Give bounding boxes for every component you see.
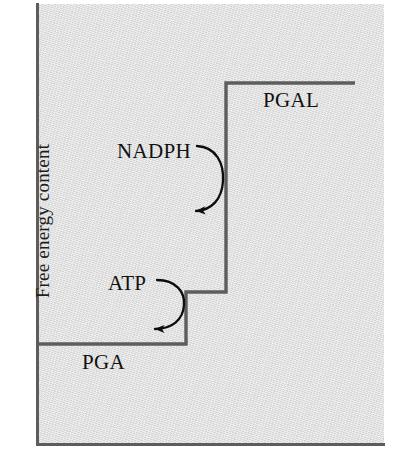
diagram-overlay bbox=[0, 0, 404, 454]
nadph-arrow bbox=[196, 146, 223, 211]
energy-diagram-figure: Free energy content PGAL PGA NADPH ATP bbox=[0, 0, 404, 454]
label-nadph: NADPH bbox=[117, 139, 191, 164]
label-pgal: PGAL bbox=[263, 88, 319, 113]
atp-arrow bbox=[155, 280, 184, 329]
energy-step-trace bbox=[38, 83, 355, 344]
label-atp: ATP bbox=[108, 271, 146, 296]
label-pga: PGA bbox=[82, 350, 125, 375]
